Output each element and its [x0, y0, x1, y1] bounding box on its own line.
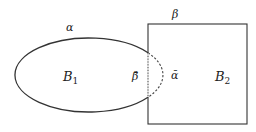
b2-label: B2 [214, 69, 230, 86]
beta-label: β [171, 8, 178, 21]
square-region-b2 [148, 24, 247, 124]
venn-diagram: α β B1 B2 β̄ ᾱ [0, 0, 256, 132]
alpha-bar-label: ᾱ [171, 69, 179, 82]
beta-bar-label: β̄ [131, 70, 138, 83]
b2-letter: B [214, 69, 225, 84]
ellipse-boundary-alpha [15, 38, 148, 112]
b1-subscript: 1 [73, 76, 79, 86]
alpha-label: α [66, 21, 74, 34]
b2-subscript: 2 [225, 76, 231, 86]
ellipse-boundary-inside-square [148, 53, 163, 98]
b1-label: B1 [62, 69, 78, 86]
b1-letter: B [62, 69, 73, 84]
